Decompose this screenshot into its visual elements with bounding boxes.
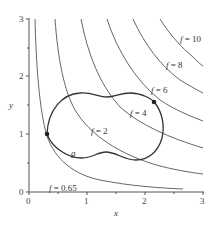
level-curves (35, 19, 203, 189)
y-tick-1: 1 (19, 129, 24, 139)
label-f6: f = 6 (151, 85, 168, 95)
x-tick-1: 1 (84, 196, 89, 206)
x-tick-2: 2 (142, 196, 147, 206)
tangent-point-right (152, 100, 157, 105)
x-axis-label: x (113, 208, 118, 218)
y-tick-3: 3 (19, 14, 24, 24)
x-tick-0: 0 (26, 196, 31, 206)
label-f10: ff = 10 = 10 (180, 34, 202, 44)
level-curve-chart: 3 2 1 0 0 1 2 3 x y ff = 10 = 10 f = 8 f… (0, 0, 216, 228)
x-tick-3: 3 (200, 196, 205, 206)
label-f4: f = 4 (130, 108, 147, 118)
y-tick-0: 0 (19, 187, 24, 197)
label-f8: f = 8 (166, 60, 183, 70)
y-axis-label: y (8, 100, 13, 110)
axes (26, 18, 204, 195)
label-f2: f = 2 (91, 126, 108, 136)
tangent-point-left (45, 132, 50, 137)
label-g: g (71, 148, 76, 158)
y-tick-2: 2 (19, 71, 24, 81)
label-f0.65: f = 0.65 (49, 183, 77, 193)
